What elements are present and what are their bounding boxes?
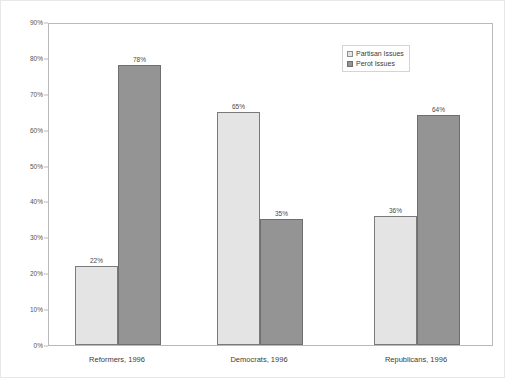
bar-partisan-1 [217,112,260,345]
bar-partisan-2 [374,216,417,345]
y-axis-tick-label: 60% [1,127,43,134]
y-axis-tick-label: 50% [1,163,43,170]
y-axis-tick-label: 0% [1,343,43,350]
x-axis-category-label: Reformers, 1996 [89,356,145,364]
bar-perot-0 [118,65,161,345]
y-axis-tick-label: 20% [1,271,43,278]
legend-item-label: Partisan Issues [356,50,404,57]
bar-chart: 0%10%20%30%40%50%60%70%80%90% 22%78%65%3… [0,0,505,378]
legend-item-partisan: Partisan Issues [347,49,404,58]
bar-value-label: 36% [389,208,402,215]
legend-swatch-icon [347,51,353,57]
x-axis-category-label: Democrats, 1996 [230,356,287,364]
bar-value-label: 22% [90,258,103,265]
legend-swatch-icon [347,61,353,67]
bar-value-label: 35% [275,211,288,218]
x-axis-category-label: Republicans, 1996 [385,356,447,364]
legend-item-perot: Perot Issues [347,59,404,68]
y-axis-tick-label: 70% [1,92,43,99]
plot-area: 22%78%65%35%36%64% [48,23,493,346]
chart-legend: Partisan IssuesPerot Issues [342,45,410,72]
bar-value-label: 78% [133,57,146,64]
y-axis-tick-label: 10% [1,307,43,314]
y-axis-tick-label: 30% [1,235,43,242]
y-axis-tick-label: 40% [1,199,43,206]
legend-item-label: Perot Issues [356,60,395,67]
bar-value-label: 64% [432,107,445,114]
y-axis-tick-label: 90% [1,20,43,27]
bar-perot-1 [260,219,303,345]
y-axis-tick-label: 80% [1,56,43,63]
bar-perot-2 [417,115,460,345]
bar-partisan-0 [75,266,118,345]
bar-value-label: 65% [232,104,245,111]
